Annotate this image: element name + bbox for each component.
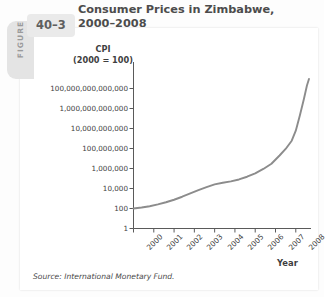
x-tick-label: 2005 <box>246 233 265 252</box>
x-tick-label: 2000 <box>145 233 164 252</box>
x-tick-label: 2004 <box>226 233 245 252</box>
x-tick-label: 2006 <box>267 233 286 252</box>
x-axis-title: Year <box>277 258 298 268</box>
x-tick-label: 2007 <box>287 233 306 252</box>
source-note: Source: International Monetary Fund. <box>33 272 175 281</box>
x-tick-label: 2002 <box>186 233 205 252</box>
x-tick-label: 2003 <box>206 233 225 252</box>
x-tick-label: 2001 <box>165 233 184 252</box>
x-tick-label: 2008 <box>307 233 326 252</box>
